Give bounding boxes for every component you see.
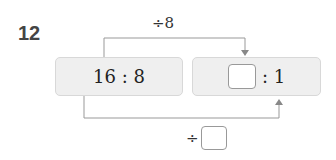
bottom-operation-label: ÷	[186, 126, 227, 150]
top-operation-label: ÷8	[152, 14, 174, 32]
problem-number: 12	[18, 22, 40, 45]
right-ratio-box: : 1	[192, 57, 321, 96]
left-ratio-box: 16 : 8	[55, 57, 183, 96]
right-ratio-suffix: : 1	[262, 66, 285, 87]
divide-symbol: ÷	[186, 129, 199, 147]
divisor-blank-input[interactable]	[201, 126, 227, 150]
left-ratio: 16 : 8	[93, 66, 145, 87]
answer-blank-input[interactable]	[228, 64, 256, 89]
